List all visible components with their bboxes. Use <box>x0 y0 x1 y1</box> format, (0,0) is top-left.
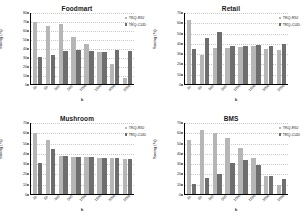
y-tick-mark <box>181 123 183 124</box>
y-tick-mark <box>27 76 29 77</box>
bar-tkq-cud <box>128 159 132 194</box>
bar-tkq-riu <box>200 130 204 194</box>
legend-label: TKQ-RIU <box>129 16 145 20</box>
bar-tkq-cud <box>115 158 119 194</box>
y-tick-label: 20 <box>177 172 181 176</box>
bar-tkq-riu <box>264 49 268 84</box>
bar-group <box>200 123 209 194</box>
bar-group <box>84 123 93 194</box>
bar-group <box>97 13 106 84</box>
y-axis: 010203040506070 <box>0 119 29 199</box>
y-tick-mark <box>181 143 183 144</box>
bar-tkq-riu <box>71 157 75 194</box>
bar-group <box>251 123 260 194</box>
x-tick-label: 5000 <box>122 84 131 92</box>
bar-tkq-riu <box>225 48 229 84</box>
bar-tkq-riu <box>277 185 281 194</box>
x-tick-label: 50 <box>197 85 203 91</box>
y-tick-mark <box>27 184 29 185</box>
y-tick-label: 40 <box>23 152 27 156</box>
bar-group <box>59 123 68 194</box>
y-tick-mark <box>27 58 29 59</box>
bar-tkq-cud <box>76 157 80 194</box>
bar-group <box>225 123 234 194</box>
legend-item: TKQ-RIU <box>279 126 300 130</box>
y-tick-label: 10 <box>23 74 27 78</box>
bar-tkq-cud <box>89 51 93 84</box>
bar-tkq-riu <box>46 26 50 84</box>
y-tick-mark <box>181 54 183 55</box>
bar-tkq-riu <box>33 133 37 194</box>
plot-area <box>30 123 134 195</box>
y-tick-mark <box>181 74 183 75</box>
x-tick-label: 3000 <box>108 84 117 92</box>
x-tick-label: 1000 <box>79 194 88 202</box>
bar-tkq-cud <box>51 55 55 84</box>
bar-tkq-cud <box>243 46 247 84</box>
bar-tkq-cud <box>205 178 209 194</box>
bar-series-container <box>31 123 134 194</box>
bar-tkq-riu <box>200 55 204 84</box>
x-axis-label: k <box>184 207 288 212</box>
bar-group <box>187 123 196 194</box>
x-tick-label: 10 <box>32 85 38 91</box>
bar-tkq-riu <box>187 140 191 195</box>
x-tick-label: 50 <box>43 195 49 201</box>
y-tick-mark <box>181 43 183 44</box>
x-axis: 10501005001000150030005000 <box>184 196 288 200</box>
bar-tkq-riu <box>97 52 101 84</box>
y-tick-mark <box>181 13 183 14</box>
bar-tkq-cud <box>192 184 196 194</box>
bar-tkq-cud <box>63 156 67 194</box>
bar-tkq-cud <box>256 45 260 84</box>
bar-tkq-riu <box>84 44 88 84</box>
plot-area <box>184 13 288 85</box>
y-tick-label: 30 <box>177 162 181 166</box>
bar-tkq-riu <box>251 158 255 194</box>
bar-tkq-cud <box>269 176 273 195</box>
y-axis: 010203040506070 <box>154 119 183 199</box>
x-tick-label: 500 <box>66 195 73 202</box>
bar-tkq-riu <box>71 37 75 84</box>
bar-tkq-riu <box>251 46 255 84</box>
bar-tkq-cud <box>76 50 80 84</box>
x-tick-label: 500 <box>66 85 73 92</box>
y-tick-label: 60 <box>23 29 27 33</box>
y-axis: 010203040506070 <box>154 9 183 89</box>
bar-tkq-riu <box>123 78 127 84</box>
y-tick-mark <box>27 85 29 86</box>
bar-series-container <box>31 13 134 84</box>
bar-group <box>33 123 42 194</box>
bar-group <box>200 13 209 84</box>
bar-tkq-riu <box>238 47 242 84</box>
y-tick-label: 70 <box>23 121 27 125</box>
bar-series-container <box>185 13 288 84</box>
y-tick-mark <box>27 164 29 165</box>
y-tick-mark <box>181 33 183 34</box>
bar-tkq-riu <box>97 158 101 194</box>
bar-tkq-riu <box>123 159 127 194</box>
bar-tkq-cud <box>38 57 42 84</box>
chart-legend: TKQ-RIUTKQ-CUD <box>125 126 146 139</box>
x-axis: 10501005001000150030005000 <box>184 86 288 90</box>
y-tick-mark <box>27 133 29 134</box>
x-tick-label: 3000 <box>262 194 271 202</box>
bar-tkq-riu <box>46 140 50 195</box>
x-tick-label: 5000 <box>276 194 285 202</box>
y-tick-mark <box>27 49 29 50</box>
bar-tkq-cud <box>38 163 42 194</box>
legend-item: TKQ-CUD <box>125 133 146 137</box>
y-tick-label: 60 <box>177 131 181 135</box>
bar-tkq-cud <box>256 165 260 194</box>
bar-group <box>225 13 234 84</box>
y-tick-mark <box>27 143 29 144</box>
y-tick-label: 40 <box>177 42 181 46</box>
legend-swatch-icon <box>125 127 128 130</box>
y-tick-label: 10 <box>177 183 181 187</box>
legend-swatch-icon <box>125 23 128 26</box>
y-axis-label: Saving (%) <box>152 29 157 49</box>
chart-legend: TKQ-RIUTKQ-CUD <box>125 16 146 29</box>
y-tick-label: 70 <box>177 11 181 15</box>
bar-group <box>59 13 68 84</box>
x-tick-label: 1500 <box>247 84 256 92</box>
